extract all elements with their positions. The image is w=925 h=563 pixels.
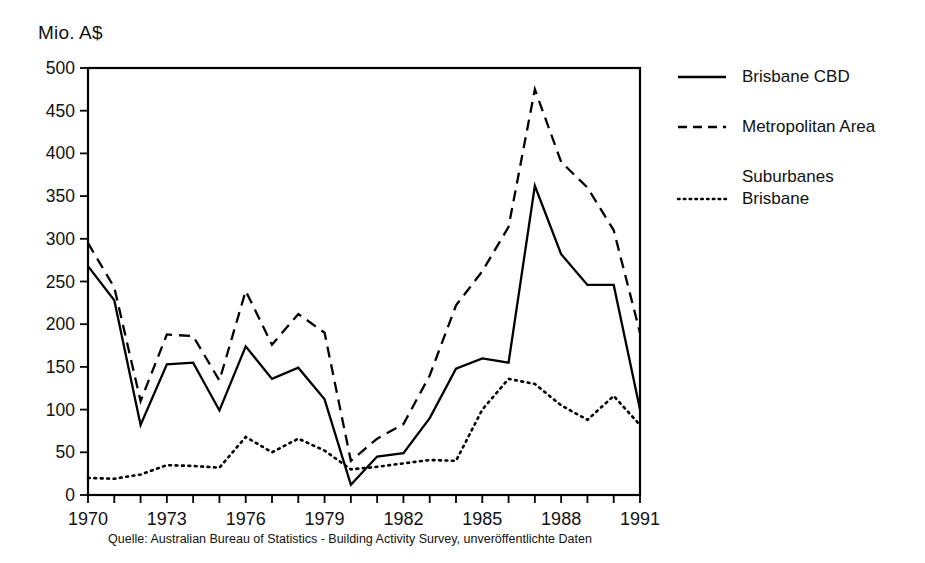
x-axis-tick-label: 1973: [147, 509, 187, 529]
x-axis-tick-label: 1985: [462, 509, 502, 529]
x-axis-tick-label: 1976: [226, 509, 266, 529]
plot-frame: [88, 68, 640, 495]
legend-swatch-dotted-icon: [676, 188, 728, 208]
legend-label-brisbane-cbd: Brisbane CBD: [742, 66, 850, 88]
legend-item-metropolitan-area: Metropolitan Area: [676, 116, 916, 138]
y-axis-tick-label: 100: [46, 400, 75, 420]
y-axis-tick-label: 400: [46, 143, 75, 163]
legend-item-brisbane-cbd: Brisbane CBD: [676, 66, 916, 88]
series-line-metropolitan-area: [88, 89, 640, 460]
legend-swatch-dashed-icon: [676, 116, 728, 136]
y-axis-tick-label: 450: [46, 101, 75, 121]
y-axis-tick-label: 150: [46, 357, 75, 377]
x-axis-tick-label: 1988: [541, 509, 581, 529]
source-caption: Quelle: Australian Bureau of Statistics …: [0, 532, 700, 546]
y-axis-tick-label: 250: [46, 272, 75, 292]
y-axis-tick-label: 50: [56, 442, 76, 462]
legend-label-suburbanes-brisbane: Suburbanes Brisbane: [742, 166, 834, 210]
y-axis-tick-label: 300: [46, 229, 75, 249]
chart-figure: Mio. A$ 05010015020025030035040045050019…: [0, 0, 925, 563]
y-axis-tick-label: 350: [46, 186, 75, 206]
legend-item-suburbanes-brisbane: Suburbanes Brisbane: [676, 166, 916, 210]
x-axis-tick-label: 1970: [68, 509, 108, 529]
series-line-suburbanes-brisbane: [88, 379, 640, 479]
legend-swatch-solid-icon: [676, 66, 728, 86]
y-axis-tick-label: 200: [46, 314, 75, 334]
y-axis-tick-label: 500: [46, 58, 75, 78]
x-axis-tick-label: 1982: [383, 509, 423, 529]
y-axis-tick-label: 0: [65, 485, 75, 505]
x-axis-tick-label: 1979: [305, 509, 345, 529]
chart-legend: Brisbane CBD Metropolitan Area Suburbane…: [676, 66, 916, 238]
legend-label-metropolitan-area: Metropolitan Area: [742, 116, 875, 138]
x-axis-tick-label: 1991: [620, 509, 660, 529]
